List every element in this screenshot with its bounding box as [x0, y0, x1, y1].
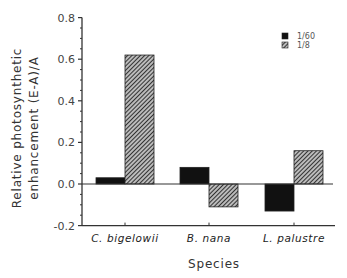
y-tick-label: 0.6: [58, 53, 76, 66]
bar-chart: -0.20.00.20.40.60.8 C. bigelowiiB. nanaL…: [0, 0, 347, 278]
bars: [96, 55, 323, 211]
legend-label: 1/8: [297, 41, 310, 50]
y-tick-label: 0.8: [58, 12, 76, 25]
y-tick-label: -0.2: [54, 220, 75, 233]
y-tick-label: 0.4: [58, 95, 76, 108]
bar-1-60-0: [96, 178, 125, 184]
y-axis-title-line1: Relative photosynthetic: [10, 48, 24, 209]
legend-swatch: [282, 33, 288, 39]
category-label: B. nana: [187, 232, 231, 244]
category-label: C. bigelowii: [91, 232, 159, 244]
legend-label: 1/60: [297, 32, 315, 41]
category-label: L. palustre: [263, 232, 325, 244]
y-tick-label: 0.0: [58, 178, 76, 191]
y-tick-label: 0.2: [58, 136, 76, 149]
bar-1-8-2: [294, 151, 323, 184]
bar-1-60-2: [265, 184, 294, 211]
legend-swatch: [282, 42, 288, 48]
x-axis: C. bigelowiiB. nanaL. palustre: [82, 184, 335, 244]
bar-1-8-0: [125, 55, 154, 184]
bar-1-60-1: [180, 167, 209, 184]
y-axis-title-line2: enhancement (E-A)/A: [27, 56, 41, 199]
legend: 1/601/8: [282, 32, 315, 50]
x-axis-title: Species: [188, 257, 240, 271]
bar-1-8-1: [209, 184, 238, 207]
y-axis: -0.20.00.20.40.60.8: [54, 12, 82, 233]
